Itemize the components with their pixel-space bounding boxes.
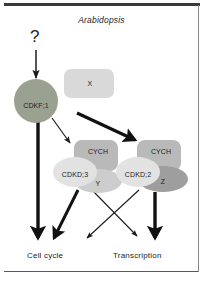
species-title: Arabidopsis xyxy=(0,16,203,25)
edge-cdkf1-to-cdkd2-complex xyxy=(77,113,135,140)
unknown-input-marker: ? xyxy=(30,28,39,45)
node-label-z: Z xyxy=(157,178,169,185)
outcome-label-transcription: Transcription xyxy=(113,252,162,260)
node-cdkf1 xyxy=(14,79,58,123)
node-label-x: X xyxy=(82,80,98,87)
edge-cdkd3-complex-to-cell-cycle xyxy=(54,190,78,238)
node-label-cdkf1: CDKF;1 xyxy=(14,102,58,109)
node-label-cych-right: CYCH xyxy=(144,148,178,155)
edge-cdkf1-to-cdkd3-complex xyxy=(52,118,70,143)
node-label-cdkd2: CDKD;2 xyxy=(119,171,157,178)
node-label-cych-left: CYCH xyxy=(81,148,115,155)
figure-panel: Arabidopsis ? CDKF;1 X CYCH CDKD;3 Y CYC… xyxy=(0,0,203,284)
outcome-label-cell-cycle: Cell cycle xyxy=(27,252,63,260)
node-label-cdkd3: CDKD;3 xyxy=(56,171,94,178)
node-label-y: Y xyxy=(92,180,104,187)
